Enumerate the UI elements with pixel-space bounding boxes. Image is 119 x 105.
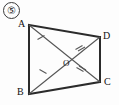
side-cb	[29, 82, 100, 94]
tick-oc	[77, 66, 87, 72]
vertex-label-c: C	[104, 77, 111, 87]
vertex-label-b: B	[17, 87, 24, 97]
tick-bo	[40, 70, 47, 74]
side-ad	[29, 25, 100, 37]
diagonal-ac	[29, 25, 100, 82]
vertex-label-d: D	[103, 31, 110, 41]
vertex-label-o: O	[63, 59, 70, 68]
vertex-label-a: A	[18, 19, 25, 29]
geometry-figure: ⑤ A D C B O	[0, 0, 119, 105]
tick-ao	[38, 36, 45, 40]
